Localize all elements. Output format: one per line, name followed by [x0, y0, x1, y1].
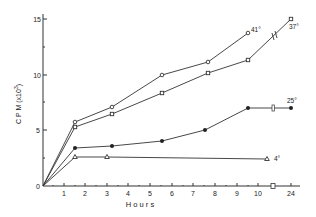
x-axis-label: H o u r s [126, 200, 155, 209]
series-label-37: 37° [289, 23, 299, 30]
x-tick-label: 6 [170, 190, 174, 197]
chart: 0 5 10 15 1 2 3 4 5 6 7 8 9 10 24 H o u … [0, 0, 316, 217]
x-tick-label: 3 [105, 190, 109, 197]
x-tick-label: 1 [62, 190, 66, 197]
series-4 [43, 155, 269, 187]
x-tick-label: 9 [235, 190, 239, 197]
series-label-41: 41° [251, 26, 261, 33]
x-tick-label: 24 [287, 190, 295, 197]
y-tick-label: 0 [36, 183, 40, 190]
x-tick-label: 5 [148, 190, 152, 197]
y-tick-label: 15 [33, 16, 41, 23]
series-41 [43, 31, 250, 186]
x-tick-label: 4 [126, 190, 130, 197]
svg-text:C P M (x103): C P M (x103) [13, 84, 23, 124]
y-axis-label: C P M (x103) [13, 84, 23, 124]
x-tick-label: 10 [254, 190, 262, 197]
x-axis [43, 183, 300, 186]
y-tick-label: 5 [36, 127, 40, 134]
y-axis [43, 14, 47, 186]
x-tick-label: 8 [213, 190, 217, 197]
series-37 [43, 17, 293, 186]
y-tick-label: 10 [33, 72, 41, 79]
x-tick-label: 7 [191, 190, 195, 197]
series-label-4: 4° [274, 155, 281, 162]
x-tick-label: 2 [83, 190, 87, 197]
series-label-25: 25° [287, 97, 297, 104]
series-25 [43, 105, 293, 186]
axis-break-icon [272, 31, 277, 40]
x-axis-break-icon [271, 184, 275, 189]
